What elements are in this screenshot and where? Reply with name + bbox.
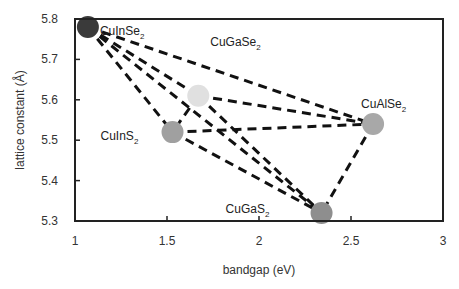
connection-line — [173, 132, 322, 213]
x-tick-label: 3 — [440, 234, 447, 248]
point-labels: CuInSe2CuGaSe2CuInS2CuAlSe2CuGaS2 — [100, 24, 407, 219]
data-point-cuins2 — [162, 121, 184, 143]
y-tick-label: 5.7 — [41, 52, 58, 66]
x-tick-label: 1 — [72, 234, 79, 248]
x-tick-label: 2.5 — [343, 234, 360, 248]
data-point-cualse2 — [362, 113, 384, 135]
scatter-chart: 11.522.53 5.35.45.55.65.75.8 CuInSe2CuGa… — [0, 0, 459, 289]
x-tick-label: 1.5 — [159, 234, 176, 248]
point-label-cugas2: CuGaS2 — [226, 202, 270, 219]
y-tick-label: 5.5 — [41, 133, 58, 147]
connection-line — [173, 124, 374, 132]
y-axis-title: lattice constant (Å) — [12, 70, 27, 169]
connection-line — [88, 27, 322, 213]
point-label-cugase2: CuGaSe2 — [210, 35, 261, 52]
y-tick-label: 5.4 — [41, 174, 58, 188]
y-tick-label: 5.3 — [41, 214, 58, 228]
point-label-cualse2: CuAlSe2 — [361, 97, 407, 114]
point-label-cuins2: CuInS2 — [101, 129, 139, 146]
x-axis-title: bandgap (eV) — [223, 263, 296, 277]
y-tick-label: 5.6 — [41, 93, 58, 107]
connection-line — [322, 124, 374, 213]
data-point-cugase2 — [187, 85, 209, 107]
connection-lines — [88, 27, 373, 213]
x-tick-label: 2 — [256, 234, 263, 248]
y-tick-label: 5.8 — [41, 12, 58, 26]
